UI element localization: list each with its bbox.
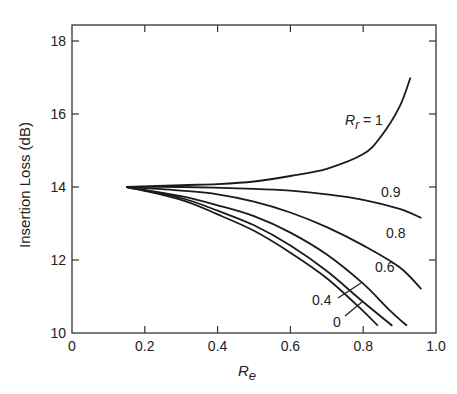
curve-label-0.4: 0.4 [312, 292, 332, 308]
curve-0.9 [127, 187, 422, 218]
x-tick-label: 1.0 [426, 338, 446, 354]
curve-label-0: 0 [333, 314, 341, 330]
x-tick-label: 0.8 [353, 338, 373, 354]
x-tick-label: 0.2 [135, 338, 155, 354]
y-tick-label: 16 [50, 106, 66, 122]
y-tick-label: 14 [50, 179, 66, 195]
y-axis-label: Insertion Loss (dB) [16, 122, 33, 248]
curve-label-0.6: 0.6 [375, 259, 395, 275]
x-tick-label: 0.6 [281, 338, 301, 354]
y-tick-label: 10 [50, 325, 66, 341]
y-tick-label: 18 [50, 33, 66, 49]
x-tick-label: 0.4 [208, 338, 228, 354]
y-tick-label: 12 [50, 252, 66, 268]
curve-0.4 [127, 187, 393, 326]
plot-frame [72, 25, 436, 333]
curve-label-rr1: Rr = 1 [345, 112, 383, 132]
curve-0.6 [127, 187, 407, 326]
insertion-loss-chart: 00.20.40.60.81.01012141618 Insertion Los… [0, 0, 457, 394]
curve-label-0.9: 0.9 [381, 184, 401, 200]
x-tick-label: 0 [68, 338, 76, 354]
x-axis-label: Re [238, 362, 256, 383]
curve-0 [127, 187, 378, 326]
curve-label-0.8: 0.8 [386, 225, 406, 241]
plot-border [72, 25, 436, 333]
curve-rr1 [127, 78, 411, 188]
leader-line-0 [345, 302, 362, 316]
